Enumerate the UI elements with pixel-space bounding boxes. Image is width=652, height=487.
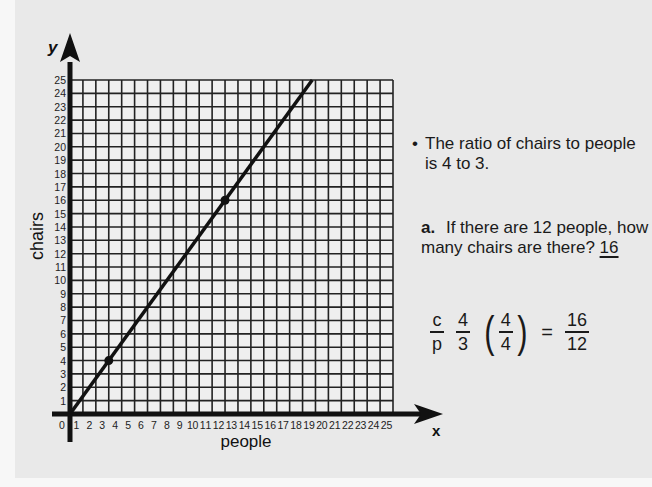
y-tick-label: 1 bbox=[60, 395, 66, 407]
x-tick-label: 11 bbox=[200, 419, 212, 431]
x-tick-label: 17 bbox=[277, 419, 289, 431]
x-tick-label: 19 bbox=[303, 419, 315, 431]
y-tick-label: 21 bbox=[54, 127, 66, 139]
y-tick-label: 3 bbox=[60, 368, 66, 380]
x-tick-label: 0 bbox=[59, 419, 65, 431]
grid-area bbox=[70, 80, 393, 414]
numerator: 4 bbox=[499, 310, 513, 330]
x-tick-label: 8 bbox=[164, 419, 170, 431]
x-tick-label: 1 bbox=[73, 419, 79, 431]
ratio-statement-text: The ratio of chairs to people is 4 to 3. bbox=[421, 134, 646, 174]
x-tick-label: 6 bbox=[138, 419, 144, 431]
y-tick-label: 2 bbox=[60, 381, 66, 393]
x-axis-letter: x bbox=[432, 422, 441, 439]
denominator: p bbox=[430, 334, 444, 354]
x-tick-label: 13 bbox=[226, 419, 238, 431]
x-tick-label: 15 bbox=[252, 419, 264, 431]
y-axis-title: chairs bbox=[27, 212, 47, 260]
y-tick-label: 12 bbox=[54, 248, 66, 260]
x-tick-label: 7 bbox=[151, 419, 157, 431]
fraction-bar bbox=[565, 331, 589, 333]
y-tick-label: 10 bbox=[54, 274, 66, 286]
data-point bbox=[221, 196, 230, 205]
y-tick-label: 4 bbox=[60, 355, 66, 367]
denominator: 4 bbox=[499, 334, 513, 354]
question-letter: a. bbox=[421, 218, 435, 237]
y-tick-label: 17 bbox=[54, 181, 66, 193]
x-tick-label: 3 bbox=[99, 419, 105, 431]
data-point bbox=[104, 356, 113, 365]
left-paren: ( bbox=[484, 310, 494, 354]
ratio-statement: • The ratio of chairs to people is 4 to … bbox=[421, 134, 646, 174]
x-tick-label: 22 bbox=[342, 419, 354, 431]
x-tick-label: 16 bbox=[264, 419, 276, 431]
equals-sign: = bbox=[541, 321, 553, 344]
fraction-bar bbox=[430, 331, 444, 333]
fraction-4-over-3: 4 3 bbox=[456, 310, 470, 354]
y-tick-label: 16 bbox=[54, 194, 66, 206]
answer-value: 16 bbox=[600, 238, 619, 257]
x-tick-label: 25 bbox=[381, 419, 393, 431]
y-tick-label: 14 bbox=[54, 221, 66, 233]
y-tick-label: 18 bbox=[54, 168, 66, 180]
y-tick-label: 8 bbox=[60, 301, 66, 313]
right-paren: ) bbox=[517, 310, 527, 354]
numerator: 4 bbox=[456, 310, 470, 330]
denominator: 12 bbox=[565, 334, 589, 354]
y-tick-label: 19 bbox=[54, 154, 66, 166]
numerator: 16 bbox=[565, 310, 589, 330]
y-tick-label: 9 bbox=[60, 288, 66, 300]
x-tick-label: 24 bbox=[368, 419, 380, 431]
y-tick-label: 25 bbox=[54, 74, 66, 86]
x-tick-label: 12 bbox=[213, 419, 225, 431]
x-tick-label: 18 bbox=[290, 419, 302, 431]
y-tick-label: 15 bbox=[54, 208, 66, 220]
fraction-c-over-p: c p bbox=[430, 310, 444, 354]
fraction-16-over-12: 16 12 bbox=[565, 310, 589, 354]
x-tick-label: 5 bbox=[125, 419, 131, 431]
numerator: c bbox=[431, 310, 444, 330]
x-tick-label: 4 bbox=[112, 419, 118, 431]
y-tick-label: 24 bbox=[54, 87, 66, 99]
y-tick-label: 11 bbox=[55, 261, 66, 273]
y-axis-letter: y bbox=[47, 38, 59, 57]
y-tick-label: 7 bbox=[60, 314, 66, 326]
bullet-icon: • bbox=[412, 134, 418, 154]
x-tick-label: 10 bbox=[187, 419, 199, 431]
proportion-equation: c p 4 3 ( 4 4 ) = 16 12 bbox=[430, 302, 589, 362]
y-tick-label: 20 bbox=[54, 141, 66, 153]
parenthesized-factor: ( 4 4 ) bbox=[482, 310, 529, 354]
x-tick-label: 23 bbox=[355, 419, 367, 431]
x-axis-title: people bbox=[220, 432, 271, 451]
y-tick-label: 13 bbox=[54, 234, 66, 246]
y-tick-label: 5 bbox=[60, 341, 66, 353]
y-tick-label: 23 bbox=[54, 101, 66, 113]
x-tick-label: 21 bbox=[329, 419, 341, 431]
y-axis-arrow-icon bbox=[60, 33, 80, 62]
x-tick-label: 2 bbox=[86, 419, 92, 431]
fraction-4-over-4: 4 4 bbox=[499, 310, 513, 354]
fraction-bar bbox=[456, 331, 470, 333]
denominator: 3 bbox=[456, 334, 470, 354]
y-tick-label: 6 bbox=[60, 328, 66, 340]
x-tick-label: 14 bbox=[239, 419, 251, 431]
question-a: a. If there are 12 people, how many chai… bbox=[421, 218, 651, 258]
fraction-bar bbox=[499, 331, 513, 333]
x-tick-label: 20 bbox=[316, 419, 328, 431]
x-tick-label: 9 bbox=[177, 419, 183, 431]
y-tick-label: 22 bbox=[54, 114, 66, 126]
